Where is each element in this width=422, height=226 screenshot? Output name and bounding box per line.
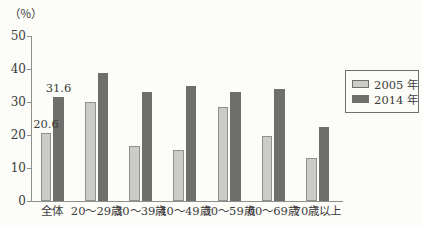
bar-2014 [142,92,153,201]
bar-2014 [319,127,330,201]
legend-label: 2005 年 [374,76,418,92]
category-label: 70歳以上 [292,205,344,218]
y-axis-tick [27,168,31,169]
legend-label: 2014 年 [374,91,418,107]
y-axis-tick [27,69,31,70]
bar-2014 [98,73,109,201]
legend-item: 2014 年 [352,92,418,106]
x-axis-line [31,201,343,202]
bar-2005 [41,133,52,201]
bar-chart: （％） 01020304050全体20〜29歳30〜39歳40〜49歳50〜59… [0,0,422,226]
bar-2005 [306,158,317,201]
bar-2014 [274,89,285,201]
bar-2005 [129,146,140,201]
y-axis-tick [27,36,31,37]
bar-value-label: 31.6 [43,82,75,95]
legend-swatch-icon [352,95,369,103]
y-tick-label: 0 [0,194,26,208]
y-axis-tick [27,201,31,202]
y-axis-tick [27,135,31,136]
bar-2005 [262,136,273,201]
legend-swatch-icon [352,80,369,88]
bar-2005 [85,102,96,201]
bar-2014 [230,92,241,201]
y-tick-label: 40 [0,62,26,76]
bar-2014 [186,86,197,201]
y-axis-unit-label: （％） [9,5,42,21]
legend-box: 2005 年2014 年 [345,70,419,113]
y-axis-tick [27,102,31,103]
legend-item: 2005 年 [352,77,418,91]
bar-2005 [173,150,184,201]
y-tick-label: 10 [0,161,26,175]
bar-2005 [218,107,229,201]
bar-2014 [53,97,64,201]
bar-value-label: 20.6 [30,118,62,131]
y-tick-label: 20 [0,128,26,142]
y-tick-label: 50 [0,29,26,43]
y-tick-label: 30 [0,95,26,109]
